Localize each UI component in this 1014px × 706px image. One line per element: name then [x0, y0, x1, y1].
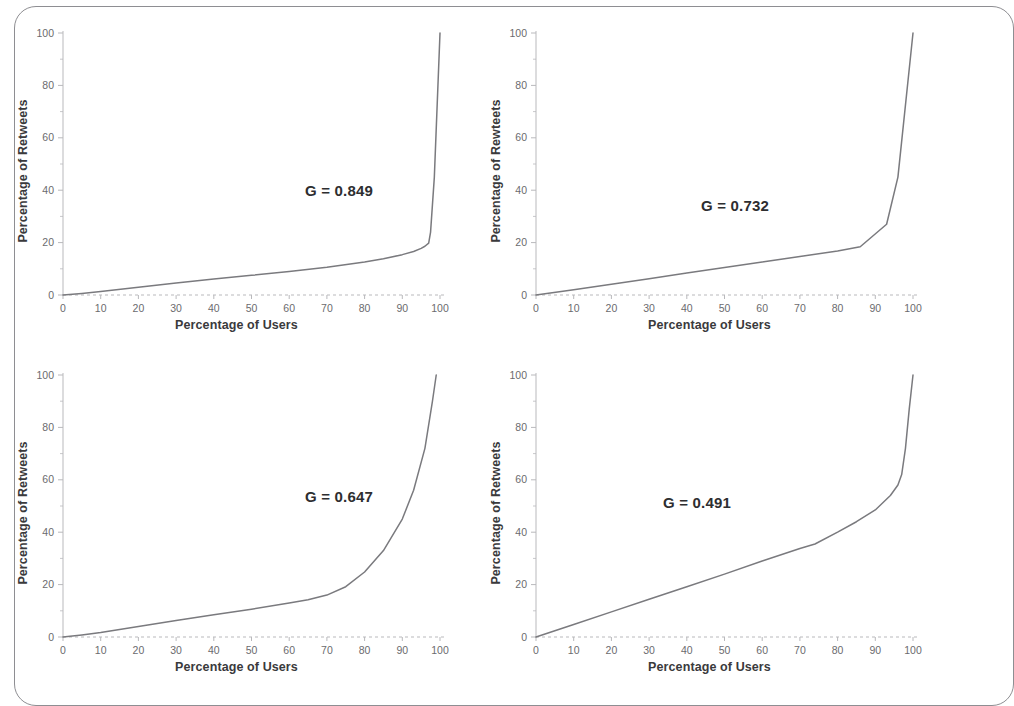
x-tick-label: 70: [794, 644, 806, 656]
x-tick-label: 30: [643, 644, 655, 656]
plot-area-bottom-right: 0204060801000102030405060708090100: [473, 342, 946, 684]
x-tick-label: 60: [756, 644, 768, 656]
lorenz-curve: [63, 375, 436, 637]
y-tick-label: 20: [515, 236, 527, 248]
lorenz-curve: [63, 33, 440, 295]
x-tick-label: 30: [643, 302, 655, 314]
y-tick-label: 40: [515, 526, 527, 538]
panel-bottom-left: 0204060801000102030405060708090100 Perce…: [0, 342, 473, 684]
plot-area-top-left: 0204060801000102030405060708090100: [0, 0, 473, 342]
x-tick-label: 90: [396, 302, 408, 314]
x-tick-label: 70: [794, 302, 806, 314]
x-tick-label: 100: [904, 644, 922, 656]
x-tick-label: 80: [832, 644, 844, 656]
y-tick-label: 80: [42, 421, 54, 433]
lorenz-curve: [536, 375, 913, 637]
y-tick-label: 40: [515, 184, 527, 196]
x-tick-label: 40: [208, 302, 220, 314]
x-tick-label: 40: [681, 644, 693, 656]
y-tick-label: 0: [48, 289, 54, 301]
x-tick-label: 10: [95, 644, 107, 656]
panel-bottom-right: 0204060801000102030405060708090100 Perce…: [473, 342, 946, 684]
x-tick-label: 10: [568, 302, 580, 314]
x-tick-label: 80: [359, 644, 371, 656]
y-tick-label: 60: [515, 131, 527, 143]
x-tick-label: 50: [246, 644, 258, 656]
x-tick-label: 20: [133, 302, 145, 314]
x-tick-label: 90: [869, 302, 881, 314]
y-tick-label: 100: [509, 369, 527, 381]
x-tick-label: 10: [568, 644, 580, 656]
x-tick-label: 80: [832, 302, 844, 314]
x-tick-label: 0: [533, 302, 539, 314]
y-tick-label: 40: [42, 526, 54, 538]
x-tick-label: 90: [396, 644, 408, 656]
y-tick-label: 20: [515, 578, 527, 590]
x-tick-label: 60: [283, 302, 295, 314]
x-tick-label: 50: [719, 644, 731, 656]
x-tick-label: 70: [321, 302, 333, 314]
y-tick-label: 80: [42, 79, 54, 91]
y-tick-label: 0: [521, 289, 527, 301]
panel-top-right: 0204060801000102030405060708090100 Perce…: [473, 0, 946, 342]
y-tick-label: 0: [521, 631, 527, 643]
y-tick-label: 100: [36, 27, 54, 39]
y-tick-label: 100: [36, 369, 54, 381]
x-tick-label: 10: [95, 302, 107, 314]
x-tick-label: 50: [719, 302, 731, 314]
lorenz-curve: [536, 33, 913, 295]
panel-top-left: 0204060801000102030405060708090100 Perce…: [0, 0, 473, 342]
x-tick-label: 30: [170, 302, 182, 314]
plot-area-bottom-left: 0204060801000102030405060708090100: [0, 342, 473, 684]
y-tick-label: 20: [42, 236, 54, 248]
x-tick-label: 100: [431, 302, 449, 314]
y-tick-label: 40: [42, 184, 54, 196]
x-tick-label: 60: [283, 644, 295, 656]
x-tick-label: 50: [246, 302, 258, 314]
x-tick-label: 20: [133, 644, 145, 656]
y-tick-label: 0: [48, 631, 54, 643]
x-tick-label: 90: [869, 644, 881, 656]
x-tick-label: 40: [681, 302, 693, 314]
y-tick-label: 80: [515, 421, 527, 433]
x-tick-label: 60: [756, 302, 768, 314]
x-tick-label: 0: [60, 644, 66, 656]
x-tick-label: 80: [359, 302, 371, 314]
x-tick-label: 30: [170, 644, 182, 656]
x-tick-label: 70: [321, 644, 333, 656]
y-tick-label: 60: [42, 131, 54, 143]
x-tick-label: 0: [60, 302, 66, 314]
x-tick-label: 20: [606, 644, 618, 656]
y-tick-label: 80: [515, 79, 527, 91]
y-tick-label: 60: [42, 473, 54, 485]
y-tick-label: 20: [42, 578, 54, 590]
x-tick-label: 100: [431, 644, 449, 656]
x-tick-label: 100: [904, 302, 922, 314]
y-tick-label: 100: [509, 27, 527, 39]
x-tick-label: 0: [533, 644, 539, 656]
plot-area-top-right: 0204060801000102030405060708090100: [473, 0, 946, 342]
x-tick-label: 40: [208, 644, 220, 656]
x-tick-label: 20: [606, 302, 618, 314]
y-tick-label: 60: [515, 473, 527, 485]
